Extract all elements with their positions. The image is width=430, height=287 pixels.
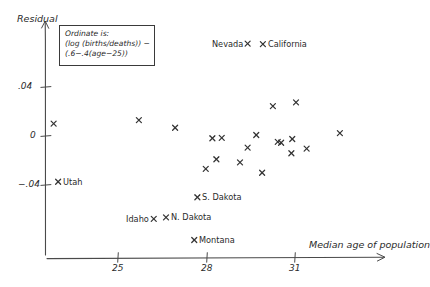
data-point-label: Idaho — [126, 214, 149, 224]
data-point-marker — [260, 170, 265, 175]
data-point-label: Montana — [199, 235, 235, 245]
data-point-label: N. Dakota — [171, 212, 211, 222]
data-point-marker — [203, 166, 208, 171]
data-point-marker — [151, 216, 156, 221]
data-point-marker — [289, 151, 294, 156]
data-point-label: California — [268, 39, 307, 49]
data-point-marker — [136, 118, 141, 123]
x-axis-tick — [118, 253, 119, 263]
data-point-marker — [294, 100, 299, 105]
data-point-marker — [173, 125, 178, 130]
x-axis-tick — [295, 253, 296, 263]
x-axis-title: Median age of population — [309, 239, 430, 250]
data-point-marker — [290, 137, 295, 142]
data-point-marker — [254, 133, 259, 138]
data-point-marker — [245, 145, 250, 150]
data-point-label: S. Dakota — [202, 192, 241, 202]
y-axis-tick — [41, 185, 51, 186]
annotation-line-3: (.6−.4(age−25)) — [65, 49, 157, 59]
x-tick-label: 28 — [201, 263, 212, 273]
annotation-line-2: (log (births/deaths)) − — [65, 39, 157, 49]
data-point-marker — [260, 42, 265, 47]
data-point-marker — [245, 41, 250, 46]
y-axis-tick — [41, 87, 51, 88]
data-point-marker — [304, 146, 309, 151]
data-point-marker — [214, 157, 219, 162]
data-point-marker — [164, 215, 169, 220]
data-point-label: Utah — [63, 177, 82, 187]
x-axis-line — [47, 257, 384, 258]
data-point-label: Nevada — [212, 39, 243, 49]
data-point-marker — [210, 136, 215, 141]
y-axis-tick — [41, 136, 51, 137]
data-point-marker — [238, 160, 243, 165]
annotation-text: Ordinate is: (log (births/deaths)) − (.6… — [65, 29, 157, 60]
y-tick-label: 0 — [30, 130, 36, 140]
x-tick-label: 25 — [112, 263, 123, 273]
annotation-line-1: Ordinate is: — [65, 29, 157, 39]
data-point-marker — [56, 179, 61, 184]
x-tick-label: 31 — [289, 263, 300, 273]
data-point-marker — [195, 195, 200, 200]
x-axis-tick — [207, 253, 208, 263]
data-point-marker — [270, 104, 275, 109]
data-point-marker — [337, 131, 342, 136]
data-point-marker — [219, 135, 224, 140]
y-tick-label: −.04 — [18, 179, 40, 189]
data-point-marker — [192, 238, 197, 243]
y-axis-title: Residual — [17, 13, 58, 24]
data-point-marker — [51, 121, 56, 126]
y-tick-label: .04 — [18, 81, 32, 91]
